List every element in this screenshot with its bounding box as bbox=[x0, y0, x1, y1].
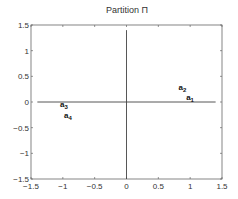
y-tick-label: 1.5 bbox=[18, 21, 30, 30]
point-label-a4: a4 bbox=[64, 111, 72, 121]
x-tick-label: 1.5 bbox=[216, 182, 228, 191]
y-tick-label: 1 bbox=[25, 47, 30, 56]
chart-title: Partition Π bbox=[106, 5, 148, 15]
y-tick-label: −1.5 bbox=[13, 175, 29, 184]
x-tick-label: −1 bbox=[58, 182, 68, 191]
x-tick-label: −0.5 bbox=[87, 182, 103, 191]
scatter-chart: Partition Π −1.5−1−0.500.511.5 1.510.50−… bbox=[0, 0, 238, 199]
y-tick-label: 0.5 bbox=[18, 72, 30, 81]
x-tick-label: 0.5 bbox=[153, 182, 165, 191]
x-tick-label: 0 bbox=[124, 182, 129, 191]
x-axis-ticks: −1.5−1−0.500.511.5 bbox=[23, 25, 228, 191]
y-tick-label: 0 bbox=[25, 98, 30, 107]
y-tick-label: −1 bbox=[20, 149, 30, 158]
point-label-a1: a1 bbox=[186, 93, 194, 103]
y-tick-label: −0.5 bbox=[13, 124, 29, 133]
point-label-a3: a3 bbox=[60, 100, 68, 110]
x-tick-label: 1 bbox=[188, 182, 193, 191]
point-label-a2: a2 bbox=[179, 83, 187, 93]
